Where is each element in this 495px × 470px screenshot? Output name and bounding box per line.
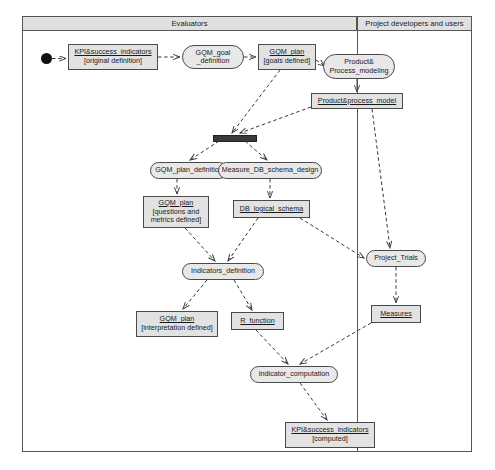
- object-node-gqm-plan-questions[interactable]: GQM_plan [questions andmetrics defined]: [143, 196, 209, 228]
- action-node-indicator-computation[interactable]: Indicator_computation: [250, 366, 338, 383]
- swimlane-divider: [357, 16, 358, 452]
- object-node-measures[interactable]: Measures: [371, 305, 421, 323]
- action-node-indicators-definition[interactable]: Indicators_definition: [182, 263, 264, 280]
- object-node-gqm-plan-interpretation[interactable]: GQM_plan [interpretation defined]: [136, 311, 218, 337]
- object-state: [computed]: [312, 435, 348, 444]
- swimlane-header-evaluators: Evaluators: [22, 16, 357, 31]
- object-name: Product&process_model: [318, 97, 396, 106]
- action-node-gqm-plan-definition[interactable]: GQM_plan_definition: [150, 162, 228, 179]
- action-label-line2: _definition: [197, 57, 230, 65]
- swimlane-label-project-developers: Project developers and users: [365, 19, 463, 28]
- action-node-gqm-goal-definition[interactable]: GQM_goal _definition: [182, 45, 244, 69]
- object-node-kpi-computed[interactable]: KPI&success_indicators [computed]: [285, 422, 375, 448]
- object-state: [interpretation defined]: [141, 324, 213, 333]
- object-node-r-function[interactable]: R_function: [231, 312, 284, 330]
- action-label-line1: Indicator_computation: [259, 370, 330, 378]
- object-name: Measures: [380, 310, 412, 319]
- action-label-line1: GQM_plan_definition: [155, 166, 223, 174]
- object-state: [goals defined]: [264, 57, 311, 66]
- object-name: R_function: [240, 317, 274, 326]
- action-node-product-process-modeling[interactable]: Product& Process_modeling: [323, 54, 395, 79]
- object-node-kpi-original[interactable]: KPI&success_indicators [original definit…: [68, 44, 158, 70]
- action-node-project-trials[interactable]: Project_Trials: [366, 250, 426, 267]
- fork-join-bar: [213, 135, 257, 142]
- action-label-line1: Measure_DB_schema_design: [222, 166, 318, 174]
- activity-diagram-canvas: Evaluators Project developers and users …: [0, 0, 495, 470]
- swimlane-label-evaluators: Evaluators: [172, 19, 208, 28]
- swimlane-header-project-developers: Project developers and users: [357, 16, 472, 31]
- initial-node: [41, 53, 52, 64]
- swimlane-frame: [22, 16, 472, 452]
- object-state: [original definition]: [84, 57, 142, 66]
- object-node-product-process-model[interactable]: Product&process_model: [311, 93, 403, 109]
- object-name: DB_logical_schema: [240, 205, 304, 214]
- action-label-line1: Indicators_definition: [191, 267, 255, 275]
- object-state: [questions andmetrics defined]: [151, 208, 202, 226]
- object-node-db-logical-schema[interactable]: DB_logical_schema: [233, 200, 310, 218]
- action-label-line2: Process_modeling: [329, 67, 388, 75]
- action-node-measure-db-schema-design[interactable]: Measure_DB_schema_design: [218, 162, 322, 179]
- action-label-line1: Project_Trials: [374, 254, 418, 262]
- object-node-gqm-plan-goals[interactable]: GQM_plan [goals defined]: [258, 44, 316, 70]
